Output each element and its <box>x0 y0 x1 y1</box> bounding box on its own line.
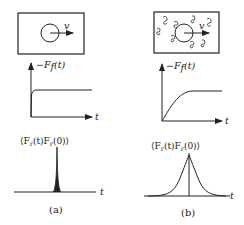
time-axis-label: t <box>95 111 99 122</box>
force-axis-label: −Ff(t) <box>166 60 196 73</box>
panel-caption-a: (a) <box>49 204 63 215</box>
force-plot-a: −Ff(t) t <box>31 59 99 122</box>
force-axis-label: −Ff(t) <box>36 59 66 72</box>
time-axis-label: t <box>230 190 234 201</box>
velocity-label: v <box>64 20 70 31</box>
correlation-curve-spike <box>53 147 61 192</box>
force-curve-step <box>31 90 92 117</box>
panel-b: v −Ff(t) t ⟨Fr(t)Fr(0)⟩ t (b) <box>144 12 234 218</box>
correlation-title: ⟨Fr(t)Fr(0)⟩ <box>20 136 69 148</box>
figure: v −Ff(t) t ⟨Fr(t)Fr(0)⟩ t (a) <box>0 0 244 225</box>
particle-box-b: v <box>154 12 219 53</box>
correlation-plot-a: ⟨Fr(t)Fr(0)⟩ t <box>14 136 104 197</box>
time-axis-label: t <box>100 186 104 197</box>
correlation-plot-b: ⟨Fr(t)Fr(0)⟩ t <box>144 141 234 201</box>
force-plot-b: −Ff(t) t <box>162 60 229 126</box>
particle-box-a: v <box>18 13 84 54</box>
force-curve-saturating <box>162 91 222 121</box>
time-axis-label: t <box>225 115 229 126</box>
correlation-title: ⟨Fr(t)Fr(0)⟩ <box>151 141 200 153</box>
panel-caption-b: (b) <box>181 207 195 218</box>
panel-a: v −Ff(t) t ⟨Fr(t)Fr(0)⟩ t (a) <box>14 13 104 215</box>
velocity-label: v <box>199 20 205 31</box>
